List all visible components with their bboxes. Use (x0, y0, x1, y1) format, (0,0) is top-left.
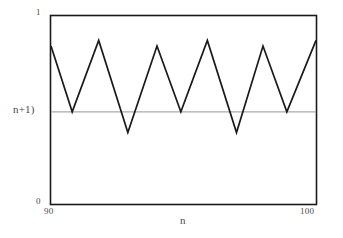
figure-container: 1 0 n+1) 90 100 n (0, 0, 343, 238)
y-axis-reference-label: n+1) (13, 104, 35, 115)
x-axis-title: n (180, 215, 186, 226)
y-axis-tick-label-top: 1 (36, 8, 41, 17)
plot-canvas (0, 0, 343, 238)
y-axis-tick-label-bottom: 0 (36, 197, 41, 206)
x-axis-tick-label-end: 100 (300, 207, 314, 216)
plot-frame (51, 16, 317, 205)
x-axis-tick-label-start: 90 (44, 207, 53, 216)
